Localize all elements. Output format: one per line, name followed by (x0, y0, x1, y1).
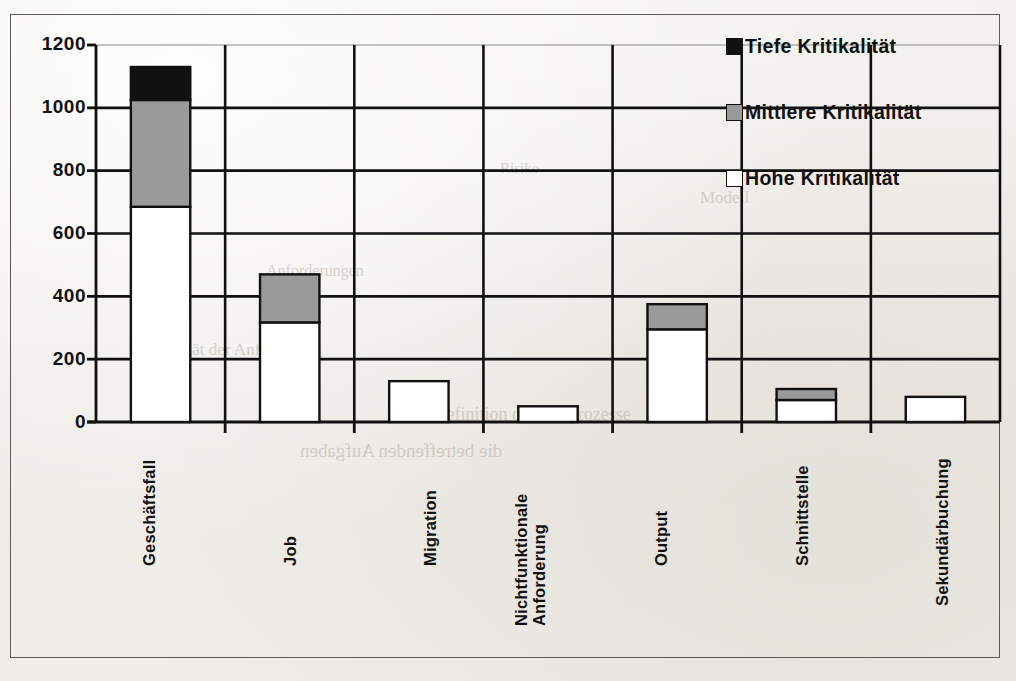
legend-label: Mittlere Kritikalität (745, 101, 921, 124)
legend-item-tief[interactable]: Tiefe Kritikalität (726, 35, 896, 58)
bar-segment (647, 304, 706, 329)
bar-segment (260, 322, 319, 422)
x-category-label-nichtfunktionale-anforderung: Nichtfunktionale Anforderung (512, 436, 549, 626)
y-tick-label: 1000 (18, 96, 86, 118)
black-square-icon (726, 38, 743, 55)
bar-segment (777, 389, 836, 400)
x-category-label-sekundaerbuchung: Sekundärbuchung (933, 436, 951, 606)
y-tick-label: 1200 (18, 33, 86, 55)
legend-item-hoch[interactable]: Hohe Kritikalität (726, 167, 900, 190)
bar-segment (906, 397, 965, 422)
white-square-icon (726, 170, 743, 187)
x-category-label-output: Output (652, 436, 670, 566)
horizontal-gridlines (96, 45, 1000, 359)
bar-segment (647, 329, 706, 422)
legend-item-mittel[interactable]: Mittlere Kritikalität (726, 101, 921, 124)
y-axis (87, 45, 96, 422)
y-tick-label: 400 (18, 285, 86, 307)
bar-segment (260, 274, 319, 322)
x-category-label-migration: Migration (421, 436, 439, 566)
y-tick-label: 0 (18, 411, 86, 433)
bar-segment (389, 381, 448, 422)
bar-segment (518, 406, 577, 422)
y-tick-label: 200 (18, 348, 86, 370)
bar-segment (131, 100, 190, 207)
gray-square-icon (726, 104, 743, 121)
y-tick-label: 600 (18, 222, 86, 244)
x-category-label-geschaeftsfall: Geschäftsfall (140, 436, 158, 566)
y-tick-label: 800 (18, 159, 86, 181)
bar-segment (131, 207, 190, 422)
bar-segment (131, 67, 190, 100)
x-axis (87, 422, 1000, 433)
legend-label: Tiefe Kritikalität (745, 35, 896, 58)
legend-label: Hohe Kritikalität (745, 167, 900, 190)
bar-segment (777, 400, 836, 422)
x-category-label-job: Job (281, 436, 299, 566)
x-category-label-schnittstelle: Schnittstelle (793, 436, 811, 566)
